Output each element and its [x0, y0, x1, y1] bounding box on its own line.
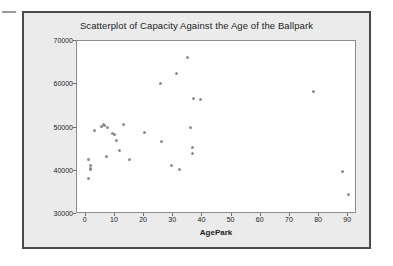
x-tick-label: 10	[110, 216, 118, 223]
x-tick-mark	[172, 213, 173, 216]
y-tick-mark	[73, 83, 76, 84]
scatter-point	[170, 164, 173, 167]
y-tick-label: 70000	[54, 37, 73, 44]
scatter-point	[178, 168, 181, 171]
x-tick-label: 20	[139, 216, 147, 223]
scatter-point	[341, 170, 344, 173]
x-tick-mark	[143, 213, 144, 216]
x-tick-mark	[231, 213, 232, 216]
x-tick-label: 80	[314, 216, 322, 223]
x-axis-title: AgePark	[76, 228, 356, 237]
scatter-point	[128, 158, 131, 161]
y-tick-mark	[73, 170, 76, 171]
scatter-point	[105, 155, 108, 158]
x-tick-label: 90	[343, 216, 351, 223]
scatter-point	[199, 98, 202, 101]
scatter-point	[191, 146, 194, 149]
x-tick-mark	[201, 213, 202, 216]
scatter-point	[192, 97, 195, 100]
scatter-point	[118, 149, 121, 152]
x-tick-label: 40	[198, 216, 206, 223]
scatter-point	[113, 133, 116, 136]
scatter-point	[106, 126, 109, 129]
scatter-point	[186, 56, 189, 59]
scatter-point	[115, 139, 118, 142]
corner-dash-artifact	[2, 11, 16, 13]
x-tick-label: 30	[168, 216, 176, 223]
x-tick-label: 50	[227, 216, 235, 223]
scatter-point	[87, 177, 90, 180]
scatter-point	[122, 123, 125, 126]
scatter-point	[143, 131, 146, 134]
scatter-point	[347, 193, 350, 196]
y-tick-label: 40000	[54, 166, 73, 173]
scatter-point	[312, 90, 315, 93]
y-axis-tick-labels: 3000040000500006000070000	[32, 0, 73, 266]
scatter-point	[93, 129, 96, 132]
scatter-point	[191, 152, 194, 155]
x-tick-mark	[289, 213, 290, 216]
scatter-point	[159, 82, 162, 85]
scatter-point	[89, 168, 92, 171]
x-tick-mark	[260, 213, 261, 216]
x-tick-label: 70	[285, 216, 293, 223]
y-tick-mark	[73, 127, 76, 128]
y-tick-label: 50000	[54, 123, 73, 130]
scatter-point	[175, 72, 178, 75]
plot-area	[76, 40, 356, 213]
x-tick-mark	[318, 213, 319, 216]
y-tick-label: 60000	[54, 80, 73, 87]
scatter-point	[189, 126, 192, 129]
x-tick-label: 0	[83, 216, 87, 223]
scatter-point	[160, 140, 163, 143]
chart-title: Scatterplot of Capacity Against the Age …	[22, 20, 371, 31]
y-tick-mark	[73, 213, 76, 214]
y-tick-mark	[73, 40, 76, 41]
scatter-point	[87, 158, 90, 161]
x-tick-mark	[114, 213, 115, 216]
x-tick-label: 60	[256, 216, 264, 223]
x-tick-mark	[85, 213, 86, 216]
x-tick-mark	[347, 213, 348, 216]
y-tick-label: 30000	[54, 210, 73, 217]
